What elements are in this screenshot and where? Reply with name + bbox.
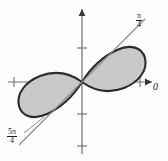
polar-plot-figure: π 4 5π 4 0 xyxy=(0,0,168,161)
angle-label-pi-over-4: π 4 xyxy=(136,12,142,30)
y-axis-arrow-icon xyxy=(79,9,86,16)
x-axis-arrow-icon xyxy=(145,79,152,86)
angle-label-pi-over-4-denominator: 4 xyxy=(136,21,142,29)
angle-label-5pi-over-4: 5π 4 xyxy=(7,128,17,146)
angle-label-5pi-over-4-denominator: 4 xyxy=(7,137,17,145)
lemniscate-upper-lobe xyxy=(82,47,146,91)
polar-plot-canvas xyxy=(0,0,168,161)
lemniscate-lower-lobe xyxy=(18,73,82,117)
axis-label-zero: 0 xyxy=(153,82,158,92)
